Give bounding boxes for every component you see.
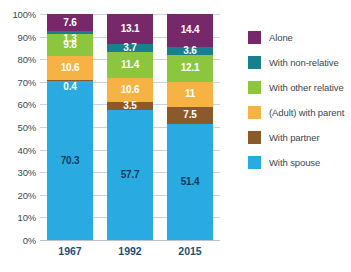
bar-segment-value: 11.4 [121, 60, 139, 70]
legend-swatch-icon [248, 131, 261, 144]
bar-segment: 11 [167, 82, 213, 107]
bar-segment-value: 51.4 [181, 177, 200, 187]
legend-item[interactable]: With partner [248, 126, 351, 148]
bar-segment-value: 57.7 [121, 170, 140, 180]
bar-segment: 51.4 [167, 124, 213, 240]
y-axis-tick-label: 80% [18, 54, 36, 65]
legend-item-label: With spouse [269, 157, 320, 168]
y-axis-tick-label: 30% [18, 167, 36, 178]
bar-segment-value: 9.8 [63, 40, 76, 50]
legend-item-label: (Adult) with parent [269, 107, 344, 118]
legend-swatch-icon [248, 56, 261, 69]
bar-segment-value: 7.5 [183, 110, 196, 120]
y-axis-tick-label: 70% [18, 76, 36, 87]
legend-item-label: Alone [269, 32, 293, 43]
y-axis-tick-label: 10% [18, 212, 36, 223]
bar-segment-value: 10.6 [121, 85, 140, 95]
legend-item-label: With partner [269, 132, 320, 143]
legend-swatch-icon [248, 156, 261, 169]
bar-segment-value: 7.6 [63, 18, 76, 28]
bar-segment: 12.1 [167, 55, 213, 82]
x-axis-line [40, 240, 220, 241]
bar-segment: 3.5 [107, 102, 153, 110]
bar-segment: 13.1 [107, 14, 153, 44]
y-axis-tick-label: 90% [18, 31, 36, 42]
legend-item-label: With non-relative [269, 57, 339, 68]
bar-segment-value: 13.1 [121, 24, 140, 34]
y-axis-tick-label: 60% [18, 99, 36, 110]
bar-segment: 3.6 [167, 47, 213, 55]
bar-segment-value: 11 [185, 89, 195, 99]
x-axis-tick-label: 1992 [107, 245, 153, 257]
legend-item[interactable]: Alone [248, 26, 351, 48]
bar-stack-2015: 14.43.612.1117.551.4 [167, 14, 213, 240]
bar-segment-value: 14.4 [181, 25, 200, 35]
bar-segment: 10.6 [107, 78, 153, 102]
bar-segment: 57.7 [107, 110, 153, 240]
legend-item[interactable]: (Adult) with parent [248, 101, 351, 123]
x-axis: 196719922015 [40, 245, 220, 257]
bar-segment-value: 12.1 [181, 63, 200, 73]
y-axis-tick-label: 20% [18, 189, 36, 200]
x-axis-tick-label: 1967 [47, 245, 93, 257]
y-axis-tick-label: 0% [23, 235, 36, 246]
bar-stack-1992: 13.13.711.410.63.557.7 [107, 14, 153, 240]
bar-segment: 9.8 [47, 34, 93, 56]
y-axis-tick-label: 50% [18, 122, 36, 133]
bar-segment: 10.6 [47, 56, 93, 80]
plot-area: 100%90%80%70%60%50%40%30%20%10%0% 7.61.3… [0, 0, 228, 272]
legend-swatch-icon [248, 81, 261, 94]
bar-group: 7.61.39.810.60.470.31.30.413.13.711.410.… [40, 14, 220, 240]
legend-item[interactable]: With non-relative [248, 51, 351, 73]
bar-segment: 7.6 [47, 14, 93, 31]
stacked-bar-chart: 100%90%80%70%60%50%40%30%20%10%0% 7.61.3… [0, 0, 351, 272]
x-axis-tick-label: 2015 [167, 245, 213, 257]
bar-segment: 11.4 [107, 52, 153, 78]
y-axis: 100%90%80%70%60%50%40%30%20%10%0% [0, 0, 40, 272]
legend-swatch-icon [248, 106, 261, 119]
legend-item[interactable]: With other relative [248, 76, 351, 98]
y-axis-tick-label: 100% [13, 9, 37, 20]
bar-segment-value: 70.3 [61, 156, 80, 166]
bar-segment-value: 10.6 [61, 63, 80, 73]
legend-swatch-icon [248, 31, 261, 44]
legend: AloneWith non-relativeWith other relativ… [228, 0, 351, 272]
bar-segment: 3.7 [107, 44, 153, 52]
legend-item[interactable]: With spouse [248, 151, 351, 173]
bar-segment: 70.3 [47, 81, 93, 240]
y-axis-tick-label: 40% [18, 144, 36, 155]
bar-segment: 14.4 [167, 14, 213, 47]
legend-item-label: With other relative [269, 82, 344, 93]
bar-stack-1967: 7.61.39.810.60.470.31.30.4 [47, 14, 93, 240]
bar-segment: 7.5 [167, 107, 213, 124]
